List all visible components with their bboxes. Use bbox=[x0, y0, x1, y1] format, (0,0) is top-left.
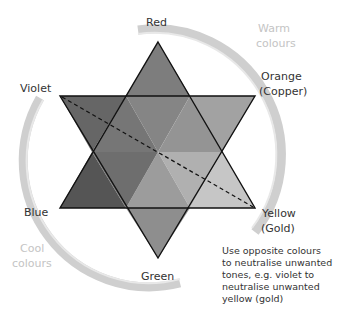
label-green: Green bbox=[141, 270, 174, 283]
note-line: yellow (gold) bbox=[222, 293, 332, 305]
label-red: Red bbox=[146, 16, 167, 29]
red-segment bbox=[126, 42, 190, 96]
label-yellow: Yellow bbox=[262, 207, 296, 220]
green-segment bbox=[126, 208, 190, 258]
note-line: to neutralise unwanted bbox=[222, 257, 332, 269]
label-blue: Blue bbox=[24, 206, 48, 219]
label-yellow-gold: (Gold) bbox=[261, 222, 295, 235]
note-line: neutralise unwanted bbox=[222, 281, 332, 293]
label-warm: Warm bbox=[258, 22, 290, 35]
label-cool: Cool bbox=[20, 242, 44, 255]
label-orange-copper: (Copper) bbox=[259, 85, 307, 98]
label-warm-colours: colours bbox=[256, 37, 296, 50]
label-orange: Orange bbox=[261, 70, 302, 83]
label-cool-colours: colours bbox=[12, 257, 52, 270]
label-violet: Violet bbox=[20, 82, 51, 95]
note-line: tones, e.g. violet to bbox=[222, 269, 332, 281]
usage-note: Use opposite colours to neutralise unwan… bbox=[222, 245, 332, 305]
note-line: Use opposite colours bbox=[222, 245, 332, 257]
